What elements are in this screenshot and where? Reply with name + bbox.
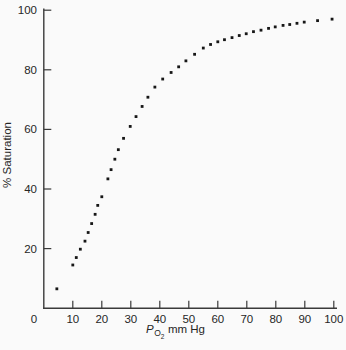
data-point [79, 248, 82, 251]
data-point [274, 25, 277, 28]
data-point [147, 96, 150, 99]
data-point [75, 256, 78, 259]
data-point [282, 24, 285, 27]
data-point [209, 43, 212, 46]
x-tick-label: 30 [124, 313, 137, 325]
data-point [87, 231, 90, 234]
data-point [90, 222, 93, 225]
data-point [100, 195, 103, 198]
data-point [129, 125, 132, 128]
y-tick-label: 20 [24, 243, 37, 255]
data-point [55, 287, 58, 290]
data-point [135, 115, 138, 118]
x-tick-label: 20 [95, 313, 108, 325]
data-point [122, 137, 125, 140]
data-point [267, 27, 270, 30]
x-title-units: mm Hg [168, 323, 205, 335]
data-point [238, 34, 241, 37]
data-point [106, 177, 109, 180]
data-point [110, 168, 113, 171]
data-point [153, 86, 156, 89]
x-tick-label: 10 [66, 313, 79, 325]
data-point [260, 29, 263, 32]
x-tick-label: 80 [269, 313, 282, 325]
y-tick-label: 100 [18, 4, 37, 16]
x-tick-label: 40 [153, 313, 166, 325]
data-point [96, 204, 99, 207]
data-point [94, 213, 97, 216]
x-axis-title: PO2mm Hg [146, 323, 205, 340]
y-tick-label: 80 [24, 64, 37, 76]
data-point [177, 65, 180, 68]
x-tick-label: 100 [324, 313, 343, 325]
x-title-sub-2: 2 [161, 333, 165, 340]
data-point [185, 59, 188, 62]
scatter-plot: 204060801001020304050607080901000% Satur… [0, 0, 346, 350]
data-point [288, 23, 291, 26]
data-point [84, 240, 87, 243]
data-point [303, 21, 306, 24]
x-title-P: P [146, 323, 154, 335]
y-axis-title: % Saturation [1, 122, 13, 188]
y-tick-label: 60 [24, 123, 37, 135]
origin-label: 0 [31, 313, 37, 325]
data-point [161, 78, 164, 81]
data-point [216, 40, 219, 43]
data-point [193, 53, 196, 56]
data-point [231, 36, 234, 39]
data-point [141, 105, 144, 108]
x-tick-label: 60 [211, 313, 224, 325]
data-point [316, 19, 319, 22]
data-point [71, 264, 74, 267]
data-point [331, 18, 334, 21]
data-point [245, 32, 248, 35]
data-point [223, 38, 226, 41]
data-point [202, 47, 205, 50]
data-point [113, 158, 116, 161]
x-tick-label: 70 [240, 313, 253, 325]
data-point [117, 148, 120, 151]
y-tick-label: 40 [24, 183, 37, 195]
oxyhemoglobin-dissociation-figure: 204060801001020304050607080901000% Satur… [0, 0, 346, 350]
x-tick-label: 90 [298, 313, 311, 325]
data-point [296, 22, 299, 25]
data-point [252, 30, 255, 33]
data-point [170, 71, 173, 74]
